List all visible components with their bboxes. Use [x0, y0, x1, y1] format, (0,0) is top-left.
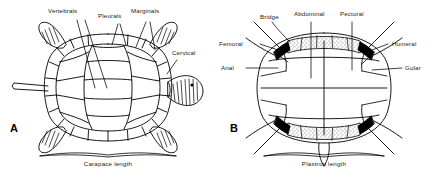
panel-a-carapace: Vertebrals Pleurals Marginals Cervical A… — [0, 0, 216, 180]
label-anal: Anal — [221, 65, 234, 71]
plastron-illustration — [216, 0, 432, 180]
turtle-anatomy-figure: Vertebrals Pleurals Marginals Cervical A… — [0, 0, 432, 180]
label-humeral: Humeral — [392, 41, 416, 47]
panel-letter-b: B — [230, 123, 238, 134]
panel-letter-a: A — [10, 123, 18, 134]
label-femoral: Femoral — [219, 41, 243, 47]
label-marginals: Marginals — [131, 8, 159, 14]
label-pectoral: Pectoral — [340, 11, 364, 17]
label-vertebrals: Vertebrals — [48, 8, 77, 14]
label-abdominal: Abdominal — [294, 11, 325, 17]
label-cervical: Cervical — [172, 50, 196, 56]
panel-b-plastron: Bridge Abdominal Pectoral Femoral Anal H… — [216, 0, 432, 180]
label-bridge: Bridge — [260, 14, 279, 20]
label-gular: Gular — [405, 65, 421, 71]
carapace-illustration — [0, 0, 216, 180]
caption-carapace-length: Carapace length — [0, 161, 216, 167]
label-pleurals: Pleurals — [98, 13, 122, 19]
caption-plastron-length: Plastron length — [216, 161, 432, 167]
